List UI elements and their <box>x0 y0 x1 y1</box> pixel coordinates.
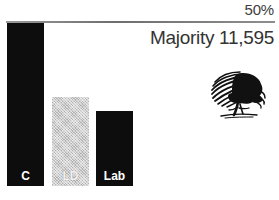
bar-lab: Lab <box>96 111 133 186</box>
bar-ld: LD <box>52 97 89 186</box>
bar-ld-label: LD <box>52 170 89 183</box>
threshold-label: 50% <box>245 1 274 19</box>
tree-icon <box>207 64 269 120</box>
threshold-line <box>6 21 275 23</box>
election-result-bar-chart: 50% Majority 11,595 C LD Lab <box>0 0 279 200</box>
bar-lab-label: Lab <box>96 170 133 183</box>
majority-headline: Majority 11,595 <box>150 26 274 49</box>
bar-c: C <box>7 23 44 186</box>
bar-c-label: C <box>7 170 44 183</box>
bar-c-fill <box>7 23 44 186</box>
